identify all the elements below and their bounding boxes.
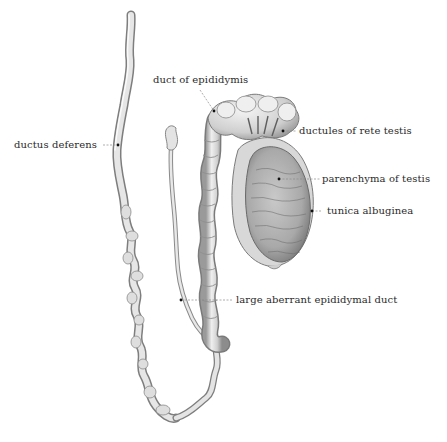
testis-structure: [232, 138, 313, 269]
epididymis-duct-structure: [200, 120, 222, 344]
anatomical-illustration: duct of epididymis ductus deferens ductu…: [0, 0, 447, 442]
label-tunica-albuginea: tunica albuginea: [327, 205, 413, 217]
label-ductules-of-rete-testis: ductules of rete testis: [299, 125, 412, 137]
label-ductus-deferens: ductus deferens: [14, 139, 97, 151]
label-parenchyma-of-testis: parenchyma of testis: [322, 173, 430, 185]
epididymis-head-structure: [208, 94, 299, 139]
label-duct-of-epididymis: duct of epididymis: [153, 74, 248, 86]
label-large-aberrant-epididymal-duct: large aberrant epididymal duct: [236, 294, 397, 306]
illustration-drawing: [0, 0, 447, 442]
